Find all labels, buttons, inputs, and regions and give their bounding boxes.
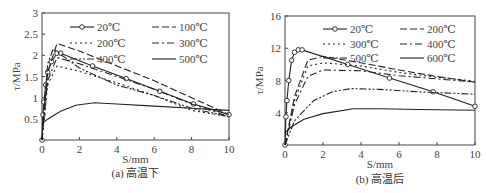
y-tick-label: 0.5 bbox=[24, 113, 38, 125]
data-marker bbox=[300, 48, 305, 53]
series-line bbox=[285, 50, 475, 145]
legend-label: 100℃ bbox=[179, 21, 208, 33]
y-tick-label: 4 bbox=[276, 107, 282, 119]
chart-a-high-temp: 02468100.511.522.53S/mmτ/MPa(a) 高温下20℃10… bbox=[10, 7, 235, 180]
y-tick-label: 3 bbox=[33, 7, 39, 19]
x-tick-label: 10 bbox=[470, 148, 482, 160]
y-axis-label: τ/MPa bbox=[253, 66, 265, 94]
data-marker bbox=[287, 78, 292, 83]
legend-label: 500℃ bbox=[179, 53, 208, 65]
figure: 02468100.511.522.53S/mmτ/MPa(a) 高温下20℃10… bbox=[0, 0, 486, 193]
x-tick-label: 4 bbox=[114, 143, 120, 155]
x-tick-label: 0 bbox=[39, 143, 45, 155]
legend-label: 300℃ bbox=[179, 37, 208, 49]
x-axis-label: S/mm bbox=[122, 153, 149, 165]
plot-frame bbox=[285, 16, 475, 145]
y-tick-label: 16 bbox=[270, 10, 282, 22]
legend-label: 400℃ bbox=[427, 38, 456, 50]
y-axis-label: τ/MPa bbox=[10, 62, 22, 90]
y-tick-label: 1 bbox=[33, 92, 39, 104]
x-tick-label: 6 bbox=[151, 143, 157, 155]
y-tick-label: 2.5 bbox=[24, 28, 38, 40]
y-tick-label: 8 bbox=[276, 75, 282, 87]
data-marker bbox=[285, 98, 290, 103]
y-tick-label: 12 bbox=[270, 42, 281, 54]
data-marker bbox=[387, 76, 392, 81]
legend-label: 300℃ bbox=[350, 38, 379, 50]
series-line bbox=[285, 70, 475, 145]
x-tick-label: 8 bbox=[189, 143, 195, 155]
legend-label: 20℃ bbox=[350, 23, 373, 35]
series-line bbox=[42, 58, 229, 141]
series-line bbox=[42, 66, 229, 140]
legend-label: 500℃ bbox=[350, 52, 379, 64]
figure-caption: (b) 高温后 bbox=[356, 172, 405, 186]
legend-label: 200℃ bbox=[427, 23, 456, 35]
legend-label: 20℃ bbox=[97, 21, 120, 33]
y-tick-label: 1.5 bbox=[24, 71, 38, 83]
x-tick-label: 0 bbox=[282, 148, 288, 160]
series-line bbox=[42, 53, 229, 140]
x-tick-label: 2 bbox=[77, 143, 83, 155]
chart-b-after-high-temp: 0246810481216S/mmτ/MPa(b) 高温后20℃200℃300℃… bbox=[253, 10, 481, 186]
x-tick-label: 6 bbox=[396, 148, 402, 160]
data-marker bbox=[284, 114, 289, 119]
data-marker bbox=[289, 58, 294, 63]
series-line bbox=[285, 109, 475, 133]
legend-label: 400℃ bbox=[97, 53, 126, 65]
x-tick-label: 8 bbox=[434, 148, 440, 160]
x-tick-label: 2 bbox=[320, 148, 326, 160]
data-marker bbox=[473, 104, 478, 109]
figure-caption: (a) 高温下 bbox=[112, 166, 160, 180]
legend-label: 600℃ bbox=[427, 52, 456, 64]
data-marker bbox=[90, 64, 95, 69]
x-tick-label: 10 bbox=[224, 143, 236, 155]
y-tick-label: 2 bbox=[33, 49, 39, 61]
data-marker bbox=[431, 89, 436, 94]
x-axis-label: S/mm bbox=[367, 158, 394, 170]
x-tick-label: 4 bbox=[358, 148, 364, 160]
legend-label: 200℃ bbox=[97, 37, 126, 49]
